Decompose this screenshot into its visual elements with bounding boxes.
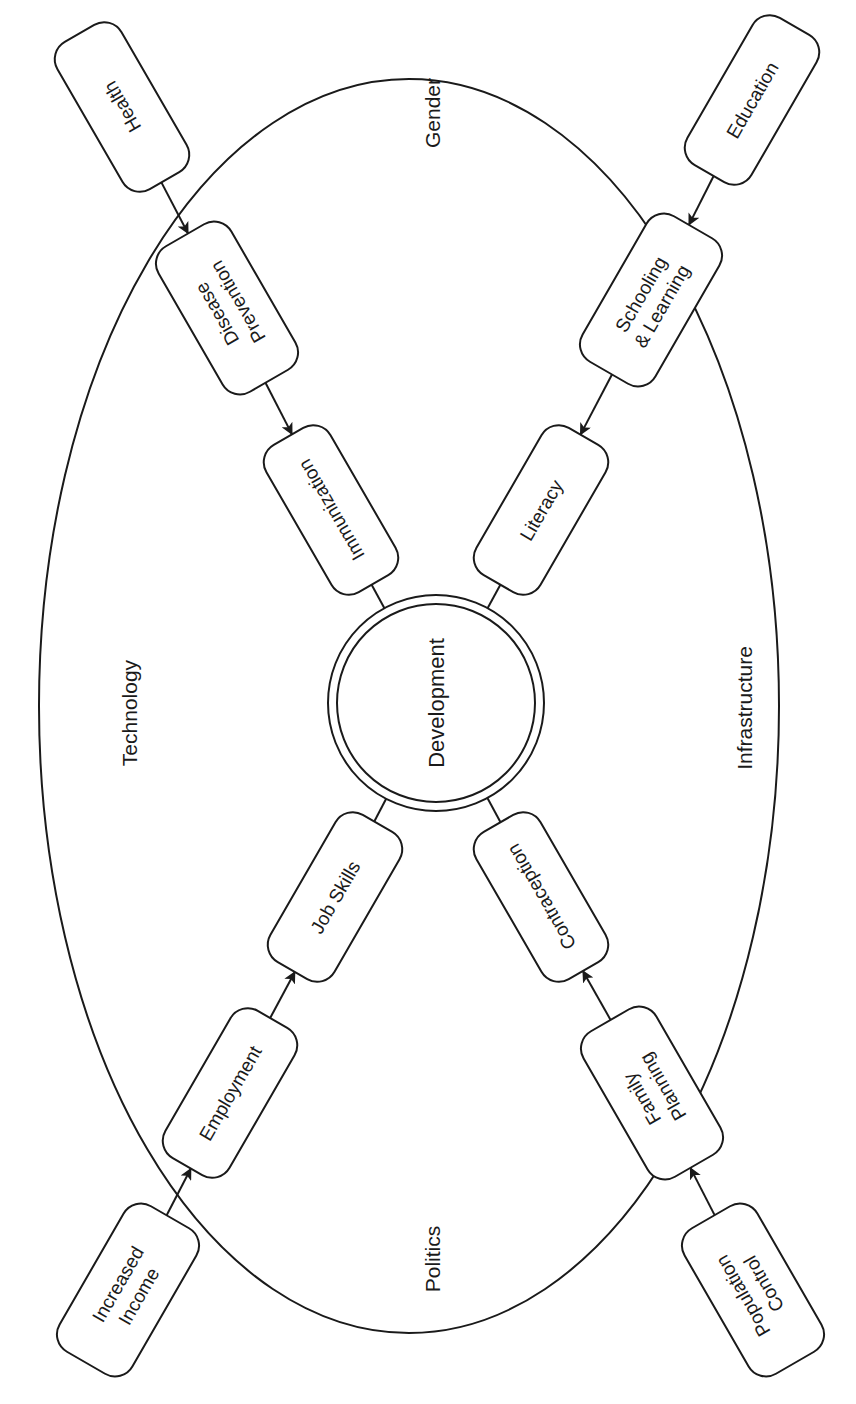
node-health[interactable]: Health <box>47 15 196 199</box>
development-label: Development <box>424 638 449 768</box>
node-immunization[interactable]: Immunization <box>256 418 405 602</box>
edge-education-to-schooling-learning <box>689 176 714 225</box>
context-label-infrastructure: Infrastructure <box>733 646 756 770</box>
node-employment[interactable]: Employment <box>155 1001 304 1185</box>
node-box <box>574 999 731 1186</box>
node-disease-prevention[interactable]: DiseasePrevention <box>149 214 306 401</box>
node-box <box>573 206 730 393</box>
edge-family-planning-to-contraception <box>583 971 611 1020</box>
node-increased-income[interactable]: IncreasedIncome <box>50 1196 207 1383</box>
context-label-politics: Politics <box>421 1226 444 1293</box>
node-family-planning[interactable]: FamilyPlanning <box>574 999 731 1186</box>
edge-schooling-learning-to-literacy <box>580 374 612 434</box>
node-job-skills[interactable]: Job Skills <box>260 805 409 989</box>
context-label-technology: Technology <box>118 659 141 766</box>
node-population-control[interactable]: PopulationControl <box>675 1196 832 1383</box>
development-diagram: Gender Technology Infrastructure Politic… <box>0 0 856 1404</box>
node-box <box>50 1196 207 1383</box>
node-literacy[interactable]: Literacy <box>466 418 615 602</box>
development-node[interactable]: Development <box>328 595 544 811</box>
edge-population-control-to-family-planning <box>690 1168 714 1215</box>
context-label-gender: Gender <box>421 78 444 148</box>
edge-employment-to-job-skills <box>270 972 295 1018</box>
edge-disease-prevention-to-immunization <box>265 383 292 435</box>
node-box <box>675 1196 832 1383</box>
node-contraception[interactable]: Contraception <box>466 805 615 989</box>
node-box <box>149 214 306 401</box>
node-education[interactable]: Education <box>677 8 826 192</box>
node-schooling-learning[interactable]: Schooling& Learning <box>573 206 730 393</box>
